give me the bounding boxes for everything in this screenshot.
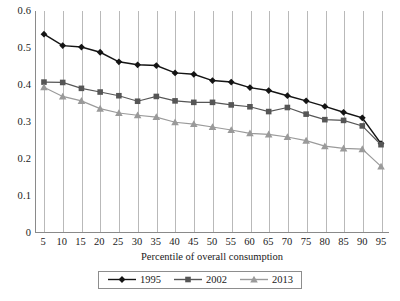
data-point-marker: [285, 105, 291, 111]
series-2002: [41, 79, 384, 147]
x-axis: 5101520253035404550556065707580859095: [35, 236, 389, 250]
series-layer: [36, 11, 389, 232]
legend-item-1995[interactable]: 1995: [107, 274, 161, 285]
legend-label: 1995: [140, 274, 161, 285]
data-point-marker: [247, 84, 254, 91]
data-point-marker: [210, 100, 216, 106]
y-tick-label: 0: [1, 228, 31, 239]
data-point-marker: [154, 94, 160, 100]
data-point-marker: [185, 277, 191, 283]
y-tick-label: 0.1: [1, 191, 31, 202]
data-point-marker: [79, 86, 85, 92]
data-point-marker: [59, 42, 66, 49]
y-tick-label: 0.6: [1, 6, 31, 17]
data-point-marker: [97, 89, 103, 95]
data-point-marker: [303, 111, 309, 117]
data-point-marker: [116, 93, 122, 99]
data-point-marker: [59, 93, 67, 100]
data-point-marker: [96, 105, 104, 112]
data-point-marker: [134, 61, 141, 68]
data-point-marker: [321, 103, 328, 110]
series-2013: [40, 83, 385, 169]
legend-marker-square-icon: [173, 274, 203, 285]
plot-area: [35, 11, 389, 233]
legend-item-2002[interactable]: 2002: [173, 274, 227, 285]
chart-container: 00.10.20.30.40.50.6 51015202530354045505…: [0, 0, 400, 301]
x-tick-label: 95: [368, 236, 394, 248]
data-point-marker: [60, 80, 66, 86]
data-point-marker: [119, 276, 126, 283]
data-point-marker: [228, 79, 235, 86]
data-point-marker: [97, 49, 104, 56]
data-point-marker: [135, 98, 141, 104]
data-point-marker: [78, 44, 85, 51]
data-point-marker: [247, 104, 253, 110]
y-axis: 00.10.20.30.40.50.6: [0, 11, 31, 233]
data-point-marker: [266, 109, 272, 115]
data-point-marker: [209, 77, 216, 84]
data-point-marker: [265, 87, 272, 94]
x-axis-title: Percentile of overall consumption: [35, 251, 389, 263]
y-tick-label: 0.3: [1, 117, 31, 128]
data-point-marker: [228, 102, 234, 108]
y-tick-label: 0.2: [1, 154, 31, 165]
data-point-marker: [322, 117, 328, 123]
data-point-marker: [284, 92, 291, 99]
legend-label: 2002: [206, 274, 227, 285]
data-point-marker: [191, 100, 197, 106]
legend-marker-triangle-icon: [239, 274, 269, 285]
legend-item-2013[interactable]: 2013: [239, 274, 293, 285]
data-point-marker: [172, 98, 178, 104]
data-point-marker: [378, 142, 384, 148]
data-point-marker: [172, 69, 179, 76]
data-point-marker: [360, 123, 366, 129]
data-point-marker: [303, 97, 310, 104]
data-point-marker: [41, 31, 48, 38]
data-point-marker: [190, 71, 197, 78]
legend-marker-diamond-icon: [107, 274, 137, 285]
data-point-marker: [153, 62, 160, 69]
data-point-marker: [115, 58, 122, 65]
data-point-marker: [340, 109, 347, 116]
y-tick-label: 0.4: [1, 80, 31, 91]
chart-legend: 199520022013: [98, 271, 302, 289]
legend-label: 2013: [272, 274, 293, 285]
y-tick-label: 0.5: [1, 43, 31, 54]
series-line: [44, 82, 381, 145]
data-point-marker: [341, 118, 347, 124]
